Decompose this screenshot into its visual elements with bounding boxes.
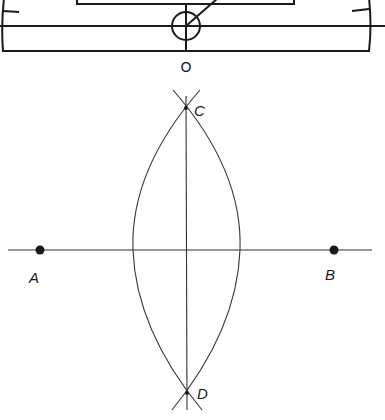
label-c: C <box>194 102 205 119</box>
label-a: A <box>28 269 39 286</box>
protractor-tick-left <box>3 11 19 12</box>
protractor-inner-window <box>77 0 294 4</box>
bisector-construction: A B C D <box>8 90 372 410</box>
line-cd <box>186 96 187 410</box>
label-d: D <box>197 385 208 402</box>
point-a <box>36 246 45 255</box>
protractor-tick-right <box>352 9 369 11</box>
origin-label: O <box>180 59 191 75</box>
point-b <box>330 246 339 255</box>
geometry-figure: O A B C D <box>0 0 385 420</box>
label-b: B <box>325 266 335 283</box>
point-c <box>184 106 188 110</box>
point-d <box>185 391 189 395</box>
protractor: O <box>0 0 385 75</box>
